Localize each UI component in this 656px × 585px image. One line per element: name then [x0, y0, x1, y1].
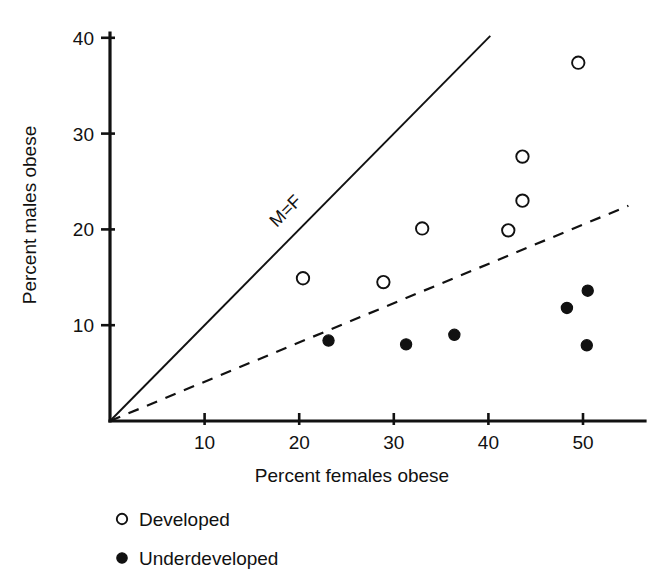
data-point-developed	[516, 150, 528, 162]
data-point-underdeveloped	[400, 339, 411, 350]
data-point-developed	[416, 222, 428, 234]
legend-marker-underdeveloped	[117, 553, 127, 563]
legend-label-underdeveloped: Underdeveloped	[139, 548, 278, 569]
data-point-underdeveloped	[323, 335, 334, 346]
data-point-developed	[516, 194, 528, 206]
legend-label-developed: Developed	[139, 509, 230, 530]
legend: Developed Underdeveloped	[117, 509, 279, 569]
x-tick-label-20: 20	[289, 432, 310, 453]
y-tick-label-30: 30	[73, 124, 94, 145]
y-tick-label-20: 20	[73, 219, 94, 240]
data-point-underdeveloped	[561, 302, 572, 313]
data-point-developed	[572, 57, 584, 69]
reference-line-trend-line	[110, 206, 628, 421]
annotations-group: M=F	[266, 191, 306, 231]
x-axis-title: Percent females obese	[255, 465, 449, 486]
x-tick-label-10: 10	[194, 432, 215, 453]
tick-labels-group: 102030405010203040	[73, 28, 594, 453]
x-tick-label-30: 30	[383, 432, 404, 453]
scatter-plot-figure: 102030405010203040 M=F Percent females o…	[0, 0, 656, 585]
data-point-developed	[377, 276, 389, 288]
reference-lines-group	[110, 36, 628, 421]
data-point-underdeveloped	[449, 329, 460, 340]
annotation-mf: M=F	[266, 191, 306, 231]
data-point-underdeveloped	[581, 340, 592, 351]
reference-line-identity-line	[110, 36, 490, 421]
data-point-developed	[502, 224, 514, 236]
data-point-underdeveloped	[582, 285, 593, 296]
data-point-developed	[297, 272, 309, 284]
x-tick-label-50: 50	[572, 432, 593, 453]
y-tick-label-10: 10	[73, 315, 94, 336]
axes-group	[110, 33, 645, 421]
y-tick-label-40: 40	[73, 28, 94, 49]
chart-canvas: 102030405010203040 M=F Percent females o…	[0, 0, 656, 585]
x-tick-label-40: 40	[478, 432, 499, 453]
data-points-group	[297, 57, 594, 351]
y-axis-title: Percent males obese	[19, 126, 40, 305]
legend-marker-developed	[117, 514, 127, 524]
